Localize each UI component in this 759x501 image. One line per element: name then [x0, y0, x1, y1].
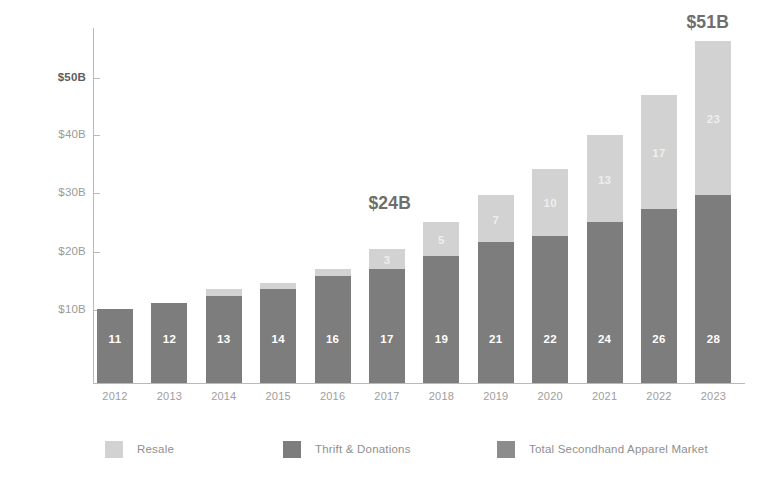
legend-label-0: Resale [137, 443, 174, 455]
secondhand-apparel-market-chart: $50B $40B $30B $20B $10B 111213141617319… [0, 0, 759, 501]
callout-24b: $24B [368, 193, 411, 214]
y-axis-label-40: $40B [34, 128, 86, 140]
bar-segment-resale-2014[interactable] [206, 289, 242, 296]
x-axis-label-2017: 2017 [364, 390, 410, 402]
bar-value-thrift-2012: 11 [97, 333, 133, 345]
bar-value-resale-2023: 23 [695, 113, 731, 125]
y-axis-label-50-wrap: $50B [30, 71, 86, 85]
legend-item-resale[interactable]: Resale [105, 438, 174, 460]
legend-item-total-secondhand-apparel-market[interactable]: Total Secondhand Apparel Market [497, 438, 708, 460]
y-axis-label-30-wrap: $30B [30, 186, 86, 200]
x-axis-label-2015: 2015 [255, 390, 301, 402]
x-axis-label-2023: 2023 [690, 390, 736, 402]
bars-container: 11121314161731952172210241326172823 [93, 28, 745, 383]
bar-value-thrift-2015: 14 [260, 333, 296, 345]
bar-segment-thrift-2021[interactable] [587, 222, 623, 383]
bar-value-resale-2019: 7 [478, 214, 514, 226]
legend-item-thrift-donations[interactable]: Thrift & Donations [283, 438, 411, 460]
bar-value-thrift-2023: 28 [695, 333, 731, 345]
y-axis-label-20: $20B [34, 245, 86, 257]
bar-value-thrift-2013: 12 [151, 333, 187, 345]
bar-segment-thrift-2017[interactable] [369, 269, 405, 383]
legend-label-1: Thrift & Donations [315, 443, 411, 455]
bar-segment-resale-2016[interactable] [315, 269, 351, 276]
y-axis-label-20-wrap: $20B [30, 245, 86, 259]
bar-value-thrift-2016: 16 [315, 333, 351, 345]
x-axis-label-2020: 2020 [527, 390, 573, 402]
bar-value-resale-2017: 3 [369, 254, 405, 266]
bar-segment-thrift-2023[interactable] [695, 195, 731, 383]
total-swatch [497, 441, 515, 458]
x-axis-label-2018: 2018 [418, 390, 464, 402]
bar-value-resale-2022: 17 [641, 147, 677, 159]
bar-segment-thrift-2016[interactable] [315, 276, 351, 383]
bar-segment-thrift-2020[interactable] [532, 236, 568, 383]
bar-value-thrift-2014: 13 [206, 333, 242, 345]
thrift-swatch [283, 441, 301, 458]
bar-value-thrift-2021: 24 [587, 333, 623, 345]
bar-value-thrift-2020: 22 [532, 333, 568, 345]
x-axis-label-2016: 2016 [310, 390, 356, 402]
resale-swatch [105, 441, 123, 458]
bar-value-resale-2018: 5 [423, 234, 459, 246]
y-axis-label-40-wrap: $40B [30, 128, 86, 142]
bar-segment-thrift-2012[interactable] [97, 309, 133, 383]
x-axis-label-2021: 2021 [582, 390, 628, 402]
x-axis-label-2013: 2013 [146, 390, 192, 402]
bar-segment-thrift-2019[interactable] [478, 242, 514, 383]
chart-legend: ResaleThrift & DonationsTotal Secondhand… [0, 438, 759, 464]
bar-value-resale-2020: 10 [532, 197, 568, 209]
bar-value-thrift-2022: 26 [641, 333, 677, 345]
x-axis-label-2019: 2019 [473, 390, 519, 402]
x-axis-label-2012: 2012 [92, 390, 138, 402]
legend-label-2: Total Secondhand Apparel Market [529, 443, 708, 455]
bar-value-thrift-2018: 19 [423, 333, 459, 345]
bar-value-thrift-2019: 21 [478, 333, 514, 345]
y-axis-label-50: $50B [34, 71, 86, 83]
callout-51b: $51B [686, 12, 729, 33]
x-axis-line [93, 383, 745, 384]
x-axis-label-2014: 2014 [201, 390, 247, 402]
y-axis-label-10: $10B [34, 303, 86, 315]
bar-segment-thrift-2018[interactable] [423, 256, 459, 383]
bar-value-thrift-2017: 17 [369, 333, 405, 345]
bar-segment-resale-2015[interactable] [260, 283, 296, 290]
y-axis-label-30: $30B [34, 186, 86, 198]
bar-segment-thrift-2022[interactable] [641, 209, 677, 383]
bar-value-resale-2021: 13 [587, 174, 623, 186]
x-axis-label-2022: 2022 [636, 390, 682, 402]
y-axis-label-10-wrap: $10B [30, 303, 86, 317]
